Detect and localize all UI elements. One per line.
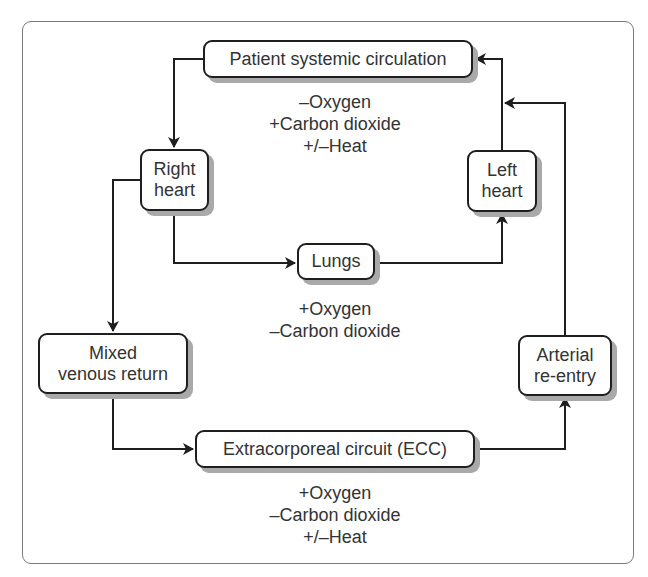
node-label-line: re-entry xyxy=(534,366,596,387)
annotation-lungs: +Oxygen –Carbon dioxide xyxy=(235,298,435,342)
annotation-line: +Oxygen xyxy=(235,298,435,320)
node-arterial-re-entry: Arterial re-entry xyxy=(518,335,612,396)
annotation-line: +Carbon dioxide xyxy=(235,113,435,135)
node-label: Extracorporeal circuit (ECC) xyxy=(223,439,447,460)
node-label-line: Arterial xyxy=(536,345,593,366)
node-label-line: Mixed xyxy=(89,343,137,364)
edge-arterial-to-left-heart xyxy=(505,103,565,335)
annotation-line: –Oxygen xyxy=(235,91,435,113)
edge-right-heart-to-mixed-venous xyxy=(113,180,140,331)
node-label: Patient systemic circulation xyxy=(229,49,446,70)
annotation-line: –Carbon dioxide xyxy=(235,320,435,342)
node-lungs: Lungs xyxy=(297,243,375,280)
node-left-heart: Left heart xyxy=(467,150,537,212)
annotation-systemic: –Oxygen +Carbon dioxide +/–Heat xyxy=(235,91,435,157)
node-extracorporeal-circuit: Extracorporeal circuit (ECC) xyxy=(195,430,475,468)
node-label-line: venous return xyxy=(58,364,168,385)
node-label-line: Left xyxy=(487,160,517,181)
edge-ecc-to-arterial xyxy=(475,398,565,449)
node-label: Lungs xyxy=(311,251,360,272)
edge-left-heart-to-patient xyxy=(476,59,502,150)
edge-patient-to-right-heart xyxy=(174,59,203,147)
annotation-line: +/–Heat xyxy=(235,526,435,548)
node-mixed-venous-return: Mixed venous return xyxy=(38,333,188,394)
node-right-heart: Right heart xyxy=(140,149,209,211)
edge-right-heart-to-lungs xyxy=(174,211,295,263)
node-label-line: heart xyxy=(481,181,522,202)
annotation-ecc: +Oxygen –Carbon dioxide +/–Heat xyxy=(235,482,435,548)
annotation-line: –Carbon dioxide xyxy=(235,504,435,526)
node-label-line: heart xyxy=(154,180,195,201)
annotation-line: +Oxygen xyxy=(235,482,435,504)
annotation-line: +/–Heat xyxy=(235,135,435,157)
node-patient-systemic-circulation: Patient systemic circulation xyxy=(203,40,473,78)
edge-lungs-to-left-heart xyxy=(377,214,502,263)
node-label-line: Right xyxy=(153,159,195,180)
edge-mixed-venous-to-ecc xyxy=(113,394,193,449)
